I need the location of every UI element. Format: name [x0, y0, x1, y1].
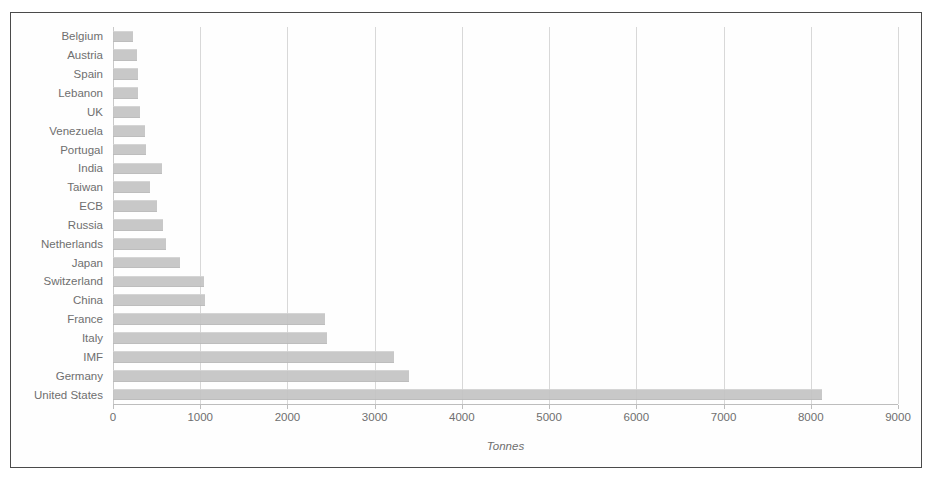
y-label-lebanon: Lebanon [58, 87, 103, 99]
y-label-portugal: Portugal [60, 144, 103, 156]
y-label-netherlands: Netherlands [41, 238, 103, 250]
bar-netherlands [113, 238, 166, 250]
chart-frame: BelgiumAustriaSpainLebanonUKVenezuelaPor… [10, 12, 922, 468]
y-label-russia: Russia [68, 219, 103, 231]
x-tick-mark-6000 [636, 405, 637, 409]
bar-row [113, 49, 898, 61]
bar-india [113, 163, 162, 175]
screenshot-page: BelgiumAustriaSpainLebanonUKVenezuelaPor… [0, 0, 934, 483]
y-label-spain: Spain [74, 68, 103, 80]
bar-uk [113, 106, 140, 118]
x-tick-label-6000: 6000 [624, 411, 650, 423]
bar-ecb [113, 200, 157, 212]
bar-row [113, 106, 898, 118]
bar-taiwan [113, 181, 150, 193]
bar-row [113, 219, 898, 231]
bar-united-states [113, 389, 822, 401]
x-tick-mark-5000 [549, 405, 550, 409]
x-axis-ticks: 0100020003000400050006000700080009000 [113, 405, 898, 427]
bar-portugal [113, 144, 146, 156]
x-tick-label-4000: 4000 [449, 411, 475, 423]
bar-row [113, 332, 898, 344]
y-label-japan: Japan [72, 257, 103, 269]
y-label-belgium: Belgium [61, 30, 103, 42]
y-label-india: India [78, 162, 103, 174]
bar-row [113, 68, 898, 80]
x-axis-title: Tonnes [113, 440, 898, 452]
x-tick-label-2000: 2000 [275, 411, 301, 423]
x-tick-label-7000: 7000 [711, 411, 737, 423]
bar-row [113, 125, 898, 137]
bar-row [113, 181, 898, 193]
bar-spain [113, 68, 138, 80]
bar-series [113, 27, 898, 404]
x-tick-mark-9000 [898, 405, 899, 409]
y-label-united-states: United States [34, 389, 103, 401]
x-tick-label-1000: 1000 [187, 411, 213, 423]
bar-france [113, 313, 325, 325]
bar-row [113, 294, 898, 306]
x-tick-mark-2000 [287, 405, 288, 409]
bar-row [113, 144, 898, 156]
bar-japan [113, 257, 180, 269]
y-label-venezuela: Venezuela [49, 125, 103, 137]
bar-row [113, 31, 898, 43]
y-label-switzerland: Switzerland [44, 275, 103, 287]
x-tick-mark-4000 [462, 405, 463, 409]
plot-area [113, 27, 898, 404]
bar-row [113, 163, 898, 175]
bar-row [113, 389, 898, 401]
x-tick-label-8000: 8000 [798, 411, 824, 423]
y-label-germany: Germany [56, 370, 103, 382]
y-label-imf: IMF [83, 351, 103, 363]
y-label-uk: UK [87, 106, 103, 118]
bar-germany [113, 370, 409, 382]
bar-switzerland [113, 276, 204, 288]
y-label-france: France [67, 313, 103, 325]
bar-row [113, 200, 898, 212]
x-tick-label-9000: 9000 [885, 411, 911, 423]
bar-italy [113, 332, 327, 344]
x-tick-label-5000: 5000 [536, 411, 562, 423]
bar-row [113, 276, 898, 288]
bar-venezuela [113, 125, 145, 137]
x-tick-label-3000: 3000 [362, 411, 388, 423]
x-tick-mark-0 [113, 405, 114, 409]
x-tick-mark-8000 [811, 405, 812, 409]
x-tick-mark-7000 [724, 405, 725, 409]
bar-belgium [113, 31, 133, 43]
y-label-italy: Italy [82, 332, 103, 344]
bar-imf [113, 351, 394, 363]
gridline-9000 [898, 27, 899, 404]
y-label-ecb: ECB [79, 200, 103, 212]
bar-row [113, 351, 898, 363]
y-axis-category-labels: BelgiumAustriaSpainLebanonUKVenezuelaPor… [11, 27, 109, 404]
x-tick-label-0: 0 [110, 411, 116, 423]
bar-austria [113, 49, 137, 61]
y-label-taiwan: Taiwan [67, 181, 103, 193]
bar-row [113, 370, 898, 382]
y-label-china: China [73, 294, 103, 306]
x-tick-mark-1000 [200, 405, 201, 409]
bar-row [113, 257, 898, 269]
bar-row [113, 238, 898, 250]
bar-lebanon [113, 87, 138, 99]
bar-china [113, 294, 205, 306]
y-label-austria: Austria [67, 49, 103, 61]
bar-row [113, 313, 898, 325]
x-tick-mark-3000 [375, 405, 376, 409]
bar-russia [113, 219, 163, 231]
bar-row [113, 87, 898, 99]
